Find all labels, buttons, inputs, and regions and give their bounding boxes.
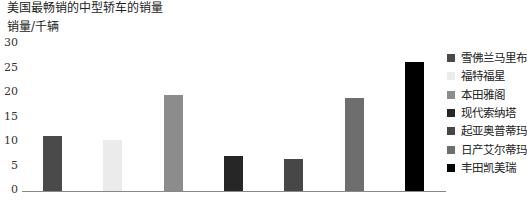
bar-6 (345, 98, 364, 191)
legend-swatch-icon (447, 72, 455, 80)
legend-item: 现代索纳塔 (447, 106, 516, 120)
legend-swatch-icon (447, 146, 455, 154)
legend-label: 日产艾尔蒂玛 (461, 143, 527, 157)
legend-item: 日产艾尔蒂玛 (447, 143, 527, 157)
legend-swatch-icon (447, 164, 455, 172)
legend-label: 本田雅阁 (461, 88, 505, 102)
legend-label: 现代索纳塔 (461, 106, 516, 120)
y-tick-label: 5 (0, 160, 18, 172)
legend-swatch-icon (447, 54, 455, 62)
y-axis-label: 销量/千辆 (7, 20, 59, 34)
legend-item: 福特福星 (447, 69, 505, 83)
legend-label: 福特福星 (461, 69, 505, 83)
bar-4 (224, 156, 243, 191)
legend-swatch-icon (447, 109, 455, 117)
chart-title: 美国最畅销的中型轿车的销量 (7, 1, 163, 15)
legend-label: 丰田凯美瑞 (461, 161, 516, 175)
bar-7 (405, 62, 424, 191)
legend-item: 丰田凯美瑞 (447, 161, 516, 175)
y-tick-label: 0 (0, 184, 18, 196)
bar-3 (164, 95, 183, 191)
y-tick-label: 10 (0, 135, 18, 147)
legend-item: 本田雅阁 (447, 88, 505, 102)
y-tick-label: 30 (0, 37, 18, 49)
bar-2 (103, 140, 122, 191)
legend-swatch-icon (447, 91, 455, 99)
bar-1 (43, 136, 62, 191)
legend-item: 雪佛兰马里布 (447, 51, 527, 65)
legend-label: 起亚奥普蒂玛 (461, 124, 527, 138)
bar-5 (284, 159, 303, 191)
y-tick-label: 20 (0, 86, 18, 98)
legend-item: 起亚奥普蒂玛 (447, 124, 527, 138)
y-tick-label: 15 (0, 111, 18, 123)
y-tick-label: 25 (0, 62, 18, 74)
x-axis-line (22, 191, 446, 192)
legend-swatch-icon (447, 127, 455, 135)
legend-label: 雪佛兰马里布 (461, 51, 527, 65)
